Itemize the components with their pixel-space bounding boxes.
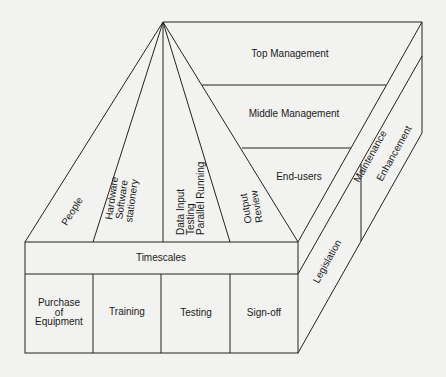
level-top-management: Top Management [251,48,328,59]
cell-testing: Testing [180,307,212,318]
cell-training: Training [109,306,145,317]
cell-signoff: Sign-off [247,307,282,318]
band-legislation: Legislation [311,238,344,285]
front-timescales: Timescales [136,252,186,263]
level-end-users: End-users [276,171,322,182]
segment-data-line3: Parallel Running [195,162,206,235]
system-implementation-diagram: Top Management Middle Management End-use… [0,0,446,377]
level-middle-management: Middle Management [249,108,340,119]
segment-people: People [59,195,85,228]
cell-purchase-line3: Equipment [35,316,83,327]
diagram-lines [25,22,422,353]
